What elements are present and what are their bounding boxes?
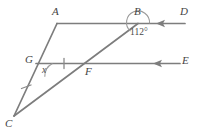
geometry-diagram: A B D E G F C 112° x xyxy=(0,0,213,134)
geometry-canvas xyxy=(0,0,213,134)
vertex-label-G: G xyxy=(25,54,33,65)
angle-label-112-degrees: 112° xyxy=(130,28,148,38)
vertex-label-C: C xyxy=(5,118,12,129)
vertex-label-F: F xyxy=(85,66,92,77)
vertex-label-D: D xyxy=(180,6,188,17)
line-C-to-B xyxy=(14,24,138,117)
line-A-to-C xyxy=(14,24,57,117)
vertex-label-E: E xyxy=(182,55,189,66)
vertex-label-A: A xyxy=(52,6,59,17)
angle-label-x: x xyxy=(42,66,46,76)
vertex-label-B: B xyxy=(134,6,141,17)
